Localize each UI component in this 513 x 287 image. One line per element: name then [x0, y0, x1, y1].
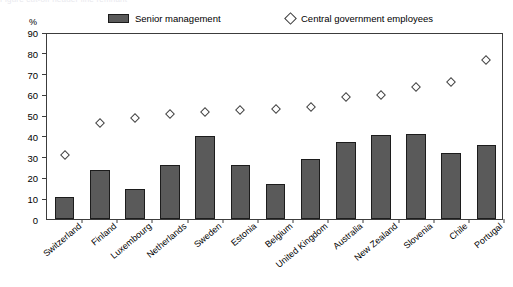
x-axis-label-belgium: Belgium: [263, 221, 294, 250]
bar-portugal: [477, 145, 497, 219]
x-axis-label-finland: Finland: [89, 221, 118, 248]
bar-netherlands: [160, 165, 180, 219]
marker-slovenia: [411, 82, 421, 92]
x-axis-label-sweden: Sweden: [192, 221, 223, 250]
marker-netherlands: [165, 109, 175, 119]
marker-sweden: [200, 107, 210, 117]
bar-finland: [90, 170, 110, 219]
y-axis-tick-20: 20: [0, 173, 46, 184]
bar-new-zealand: [371, 135, 391, 219]
bar-belgium: [266, 184, 286, 219]
y-axis-tick-90: 90: [0, 28, 46, 39]
marker-estonia: [235, 105, 245, 115]
y-axis-tick-80: 80: [0, 48, 46, 59]
chart-figure: Figure cut-off header line remnant Senio…: [0, 0, 513, 287]
bar-australia: [336, 142, 356, 219]
legend-diamond-swatch-icon: [284, 12, 297, 25]
marker-switzerland: [60, 150, 70, 160]
y-axis-tick-0: 0: [0, 215, 46, 226]
legend-bar-swatch-icon: [108, 14, 129, 23]
y-axis-tick-50: 50: [0, 111, 46, 122]
legend-item-senior-management: Senior management: [108, 14, 221, 24]
x-axis-tick-mark: [504, 219, 505, 223]
bar-sweden: [195, 136, 215, 219]
y-axis-tick-70: 70: [0, 69, 46, 80]
x-axis-label-australia: Australia: [331, 221, 364, 251]
x-axis-label-chile: Chile: [448, 221, 470, 242]
marker-portugal: [481, 55, 491, 65]
clipped-header-remnant: Figure cut-off header line remnant: [0, 0, 513, 8]
bar-switzerland: [55, 197, 75, 219]
y-axis-tick-60: 60: [0, 90, 46, 101]
bar-united-kingdom: [301, 159, 321, 219]
x-axis-label-switzerland: Switzerland: [41, 221, 83, 259]
marker-chile: [446, 77, 456, 87]
legend-item-central-government-employees: Central government employees: [286, 14, 433, 24]
x-axis-label-estonia: Estonia: [229, 221, 258, 248]
plot-series-layer: [47, 34, 502, 219]
marker-new-zealand: [376, 90, 386, 100]
chart-legend: Senior management Central government emp…: [0, 13, 513, 28]
y-axis: 0102030405060708090: [0, 33, 46, 220]
bar-estonia: [231, 165, 251, 219]
bar-slovenia: [406, 134, 426, 219]
y-axis-tick-10: 10: [0, 194, 46, 205]
legend-label-central-government-employees: Central government employees: [301, 14, 433, 24]
bar-chile: [441, 153, 461, 219]
y-axis-tick-30: 30: [0, 152, 46, 163]
y-axis-unit-label: %: [29, 17, 37, 27]
y-axis-tick-label: 0: [33, 215, 46, 226]
marker-finland: [95, 118, 105, 128]
x-axis-labels: SwitzerlandFinlandLuxembourgNetherlandsS…: [46, 221, 503, 287]
plot-area: [46, 33, 503, 220]
marker-united-kingdom: [306, 102, 316, 112]
clipped-header-text: Figure cut-off header line remnant: [0, 0, 513, 4]
marker-luxembourg: [130, 113, 140, 123]
x-axis-label-portugal: Portugal: [473, 221, 505, 250]
legend-label-senior-management: Senior management: [135, 14, 221, 24]
marker-belgium: [271, 104, 281, 114]
bar-luxembourg: [125, 189, 145, 219]
marker-australia: [341, 93, 351, 103]
x-axis-label-slovenia: Slovenia: [402, 221, 435, 251]
y-axis-tick-40: 40: [0, 131, 46, 142]
